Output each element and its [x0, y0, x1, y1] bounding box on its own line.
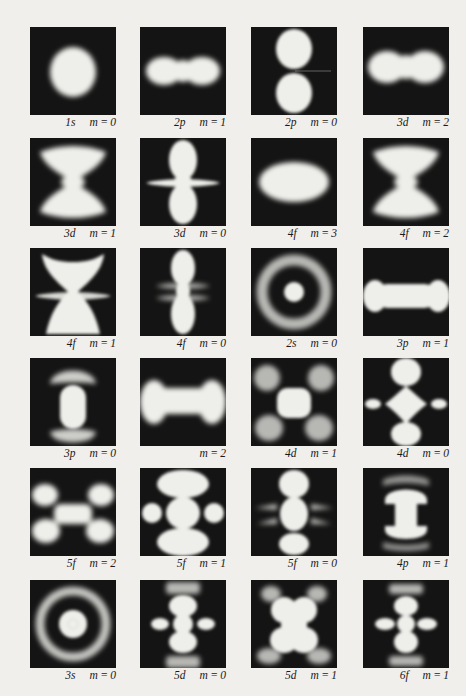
m-quantum-label: m = 0 — [200, 669, 226, 681]
orbital-cell: 4f m = 1 — [30, 248, 116, 351]
orbital-label: 5d — [285, 669, 297, 681]
orbital-label: 4f — [177, 337, 186, 349]
orbital-caption: 3d m = 2 — [363, 116, 449, 130]
orbital-label: 5d — [174, 669, 186, 681]
orbital-cell: 4d m = 0 — [363, 358, 449, 461]
orbital-label: 4d — [397, 447, 409, 459]
orbital-cell: 5f m = 1 — [140, 468, 226, 571]
orbital-caption: 1s m = 0 — [30, 116, 116, 130]
orbital-vertical-two-lobes-image — [251, 27, 337, 115]
orbital-totem-narrow-image — [363, 580, 449, 668]
m-quantum-label: m = 2 — [423, 227, 449, 239]
orbital-wide-dumbbell-image — [363, 27, 449, 115]
orbital-photo — [30, 27, 116, 115]
orbital-cell: 3s m = 0 — [30, 580, 116, 683]
orbital-cell: 4p m = 1 — [363, 468, 449, 571]
orbital-cell: 3d m = 0 — [140, 138, 226, 241]
orbital-label: 2p — [285, 116, 297, 128]
orbital-photo — [363, 580, 449, 668]
m-quantum-label: m = 2 — [200, 447, 226, 459]
orbital-horizontal-dumbbell-image — [140, 27, 226, 115]
orbital-photo — [30, 580, 116, 668]
orbital-cell: 4f m = 2 — [363, 138, 449, 241]
orbital-label: 4f — [67, 337, 76, 349]
orbital-caption: 5d m = 0 — [140, 669, 226, 683]
orbital-caption: 4f m = 3 — [251, 227, 337, 241]
orbital-caption: 4f m = 2 — [363, 227, 449, 241]
orbital-totem-image — [140, 580, 226, 668]
orbital-ellipse-image — [251, 138, 337, 226]
m-quantum-label: m = 0 — [423, 447, 449, 459]
m-quantum-label: m = 0 — [200, 337, 226, 349]
orbital-label: 5f — [288, 557, 297, 569]
orbital-cell: 2p m = 0 — [251, 27, 337, 130]
orbital-photo — [251, 468, 337, 556]
m-quantum-label: m = 1 — [311, 669, 337, 681]
orbital-photo — [251, 27, 337, 115]
orbital-cell: 2s m = 0 — [251, 248, 337, 351]
orbital-cell: 5d m = 1 — [251, 580, 337, 683]
orbital-caption: 3p m = 1 — [363, 337, 449, 351]
m-quantum-label: m = 1 — [423, 557, 449, 569]
orbital-label: 3d — [397, 116, 409, 128]
m-quantum-label: m = 1 — [200, 557, 226, 569]
orbital-ring-with-core-image — [251, 248, 337, 336]
orbital-cell: 2p m = 1 — [140, 27, 226, 130]
orbital-caption: 5f m = 1 — [140, 557, 226, 571]
orbital-photo — [30, 468, 116, 556]
orbital-photo — [251, 580, 337, 668]
orbital-caption: 6f m = 1 — [363, 669, 449, 683]
orbital-cell: 4d m = 1 — [251, 358, 337, 461]
orbital-label: 2p — [174, 116, 186, 128]
orbital-vertical-capsule-with-caps-image — [30, 358, 116, 446]
orbital-caption: 2s m = 0 — [251, 337, 337, 351]
m-quantum-label: m = 0 — [311, 337, 337, 349]
orbital-cell: m = 2 — [140, 358, 226, 461]
m-quantum-label: m = 1 — [200, 116, 226, 128]
orbital-photo — [363, 138, 449, 226]
orbital-cell: 1s m = 0 — [30, 27, 116, 130]
m-quantum-label: m = 1 — [90, 227, 116, 239]
orbital-caption: 4d m = 1 — [251, 447, 337, 461]
orbital-photo — [140, 138, 226, 226]
orbital-clover-stack-image — [251, 580, 337, 668]
orbital-label: 5f — [177, 557, 186, 569]
orbital-caption: 5f m = 2 — [30, 557, 116, 571]
orbital-photo — [251, 248, 337, 336]
m-quantum-label: m = 0 — [90, 669, 116, 681]
m-quantum-label: m = 0 — [200, 227, 226, 239]
orbital-label: 4p — [397, 557, 409, 569]
orbital-cup-hourglass-image — [30, 248, 116, 336]
orbital-label: 4f — [400, 227, 409, 239]
orbital-photo — [363, 468, 449, 556]
orbital-caption: 5f m = 0 — [251, 557, 337, 571]
orbital-center-with-four-lobes-image — [251, 358, 337, 446]
m-quantum-label: m = 0 — [90, 116, 116, 128]
m-quantum-label: m = 2 — [423, 116, 449, 128]
orbital-sphere-image — [30, 27, 116, 115]
orbital-cell: 4f m = 3 — [251, 138, 337, 241]
m-quantum-label: m = 1 — [423, 337, 449, 349]
m-quantum-label: m = 1 — [90, 337, 116, 349]
m-quantum-label: m = 2 — [90, 557, 116, 569]
orbital-label: 3d — [64, 227, 76, 239]
orbital-cross-stack-image — [140, 468, 226, 556]
m-quantum-label: m = 0 — [311, 557, 337, 569]
orbital-caption: 4f m = 0 — [140, 337, 226, 351]
orbital-butterfly-image — [363, 138, 449, 226]
orbital-caption: m = 2 — [140, 447, 226, 461]
orbital-label: 3d — [174, 227, 186, 239]
m-quantum-label: m = 1 — [311, 447, 337, 459]
orbital-photo — [363, 27, 449, 115]
m-quantum-label: m = 0 — [90, 447, 116, 459]
orbital-mushroom-stack-image — [363, 468, 449, 556]
orbital-cell: 3d m = 1 — [30, 138, 116, 241]
orbital-photo — [30, 248, 116, 336]
m-quantum-label: m = 3 — [311, 227, 337, 239]
orbital-photo — [363, 248, 449, 336]
orbital-vertical-with-side-spikes-image — [251, 468, 337, 556]
orbital-cell: 3p m = 0 — [30, 358, 116, 461]
orbital-label: 3p — [64, 447, 76, 459]
orbital-label: 3p — [397, 337, 409, 349]
orbital-caption: 3p m = 0 — [30, 447, 116, 461]
